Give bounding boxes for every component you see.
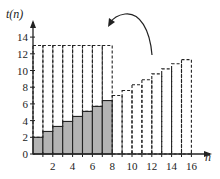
flipped-dashed-bar: [102, 45, 112, 100]
dashed-bar: [152, 74, 162, 154]
dashed-bar: [132, 85, 142, 154]
bar: [43, 131, 53, 154]
dashed-bar: [182, 60, 192, 154]
bar: [92, 106, 102, 154]
flipped-dashed-bar: [92, 45, 102, 106]
y-tick-label: 6: [23, 98, 29, 110]
curved-arrow-icon: [110, 14, 152, 55]
flipped-dashed-bar: [53, 45, 63, 126]
y-tick-label: 0: [23, 148, 29, 160]
dashed-bar: [112, 96, 122, 154]
x-tick-label: 12: [146, 160, 157, 172]
x-axis-label: n: [205, 150, 211, 164]
y-tick-label: 12: [17, 48, 28, 60]
bar: [83, 111, 93, 154]
x-tick-label: 2: [50, 160, 56, 172]
dashed-bar: [172, 64, 182, 154]
y-tick-label: 2: [23, 131, 29, 143]
flipped-dashed-bar: [73, 45, 83, 116]
flipped-dashed-bar: [43, 45, 53, 131]
x-tick-label: 6: [90, 160, 96, 172]
flipped-dashed-bar: [33, 45, 43, 137]
flipped-dashed-bar: [63, 45, 73, 121]
y-axis-label: t(n): [6, 7, 23, 21]
dashed-bars: [112, 60, 191, 154]
y-arrow-icon: [30, 20, 36, 28]
x-tick-label: 14: [166, 160, 178, 172]
bar: [53, 126, 63, 154]
x-tick-label: 10: [127, 160, 139, 172]
shaded-bars: [33, 101, 112, 154]
x-tick-label: 8: [109, 160, 115, 172]
y-tick-label: 10: [17, 65, 29, 77]
bar: [63, 121, 73, 154]
bar: [73, 116, 83, 154]
flipped-dashed-bar: [83, 45, 93, 111]
y-tick-label: 4: [23, 115, 29, 127]
chart: 24681012141602468101214 t(n) n: [0, 0, 220, 179]
y-tick-label: 14: [17, 31, 29, 43]
y-tick-label: 8: [23, 81, 29, 93]
dashed-bar: [122, 91, 132, 154]
x-tick-label: 16: [186, 160, 198, 172]
bar: [102, 101, 112, 154]
bar: [33, 137, 43, 154]
arrowhead-icon: [108, 18, 115, 27]
x-tick-label: 4: [70, 160, 76, 172]
dashed-bar: [162, 69, 172, 154]
dashed-bar: [142, 80, 152, 154]
